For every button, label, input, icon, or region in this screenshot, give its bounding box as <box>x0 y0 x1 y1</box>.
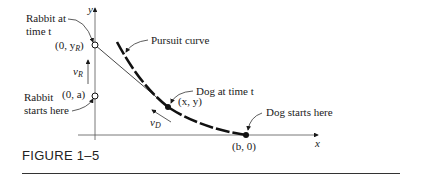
figure-caption: FIGURE 1–5 <box>22 148 99 163</box>
pursuit-curve-label: Pursuit curve <box>151 34 209 46</box>
rabbit-velocity-label: vR <box>73 65 83 79</box>
rabbit-starts-label-1: Rabbit <box>24 91 53 103</box>
dog-starts-leader <box>248 113 262 130</box>
dog-position-point <box>165 104 171 110</box>
rabbit-starts-label-2: starts here <box>24 104 69 116</box>
dog-start-label: (b, 0) <box>232 140 256 153</box>
rabbit-position-point <box>92 42 98 48</box>
dog-velocity-label: vD <box>150 116 161 130</box>
dog-start-point <box>243 132 249 138</box>
rabbit-at-time-label-1: Rabbit at <box>26 12 66 24</box>
rabbit-position-label: (0, yR) <box>55 39 84 53</box>
rabbit-start-point <box>92 93 98 99</box>
rabbit-at-time-label-2: time t <box>26 25 51 37</box>
pursuit-curve-leader <box>126 40 148 52</box>
y-axis-label: y <box>87 3 93 15</box>
rabbit-starts-leader <box>72 99 93 111</box>
dog-starts-label: Dog starts here <box>266 106 333 118</box>
dog-at-time-label: Dog at time t <box>196 85 254 97</box>
rabbit-start-label: (0, a) <box>62 88 86 101</box>
x-axis-label: x <box>314 137 320 149</box>
caption-rule <box>22 173 400 174</box>
